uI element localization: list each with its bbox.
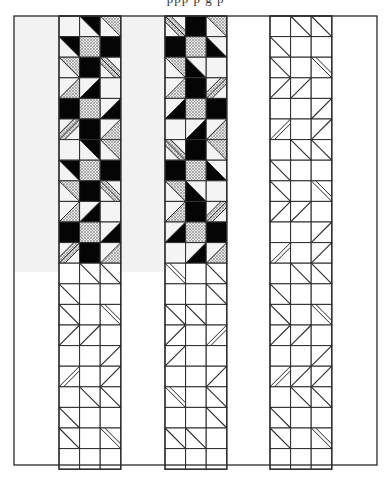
strip-cell: [165, 304, 186, 325]
strip-cell: [186, 222, 207, 243]
strip-cell: [206, 428, 227, 449]
strip-cell: [186, 57, 207, 78]
strip-cell: [59, 201, 80, 222]
strip-cell: [80, 140, 101, 161]
strip-cell: [165, 78, 186, 99]
strip-cell: [311, 284, 332, 305]
strip-cell: [270, 222, 291, 243]
strip-cell: [100, 387, 121, 408]
strip-cell: [59, 98, 80, 119]
strip-cell: [291, 325, 312, 346]
strip-cell: [186, 37, 207, 58]
strip-cell: [80, 407, 101, 428]
strip-cell: [206, 284, 227, 305]
strip-cell: [311, 98, 332, 119]
strip-cell: [291, 449, 312, 470]
strip-cell: [186, 16, 207, 37]
strip-cell: [100, 366, 121, 387]
strip-cell: [311, 325, 332, 346]
strip-cell: [291, 428, 312, 449]
strip-cell: [59, 325, 80, 346]
strip-cell: [80, 37, 101, 58]
strip-cell: [270, 243, 291, 264]
strip-cell: [270, 284, 291, 305]
strip-cell: [100, 346, 121, 367]
strip-cell: [100, 57, 121, 78]
strip-cell: [186, 407, 207, 428]
strip-cell: [59, 346, 80, 367]
strip-cell: [206, 366, 227, 387]
strip-cell: [270, 346, 291, 367]
strip-cell: [206, 407, 227, 428]
strip-cell: [59, 160, 80, 181]
strip-cell: [80, 243, 101, 264]
strip-cell: [311, 428, 332, 449]
strip-cell: [59, 57, 80, 78]
strip-cell: [270, 57, 291, 78]
strip-cell: [291, 243, 312, 264]
strip-cell: [165, 181, 186, 202]
strip-cell: [291, 346, 312, 367]
strip-cell: [100, 201, 121, 222]
strip-cell: [100, 181, 121, 202]
strip-cell: [80, 325, 101, 346]
strip-cell: [186, 140, 207, 161]
strip-cell: [59, 304, 80, 325]
strip-cell: [186, 78, 207, 99]
strip-cell: [165, 263, 186, 284]
strip-cell: [291, 387, 312, 408]
strip-cell: [291, 119, 312, 140]
strip-cell: [206, 263, 227, 284]
strip-cell: [291, 160, 312, 181]
strip-cell: [186, 201, 207, 222]
strip-cell: [165, 366, 186, 387]
strip-cell: [206, 78, 227, 99]
strip-cell: [291, 366, 312, 387]
strip-cell: [206, 346, 227, 367]
strip-cell: [270, 201, 291, 222]
strip-cell: [291, 16, 312, 37]
strip-cell: [206, 37, 227, 58]
strip-cell: [270, 366, 291, 387]
strip-cell: [270, 407, 291, 428]
strip-cell: [165, 407, 186, 428]
strip-cell: [186, 263, 207, 284]
strip-cell: [270, 160, 291, 181]
strip-cell: [80, 16, 101, 37]
strip-cell: [206, 98, 227, 119]
strip-cell: [80, 263, 101, 284]
strip-cell: [80, 346, 101, 367]
strip-cell: [100, 284, 121, 305]
strip-cell: [80, 201, 101, 222]
strip-cell: [59, 16, 80, 37]
strip-cell: [291, 304, 312, 325]
strip-cell: [59, 387, 80, 408]
strip-cell: [186, 387, 207, 408]
strip-cell: [80, 284, 101, 305]
strip-cell: [59, 78, 80, 99]
strip-cell: [165, 98, 186, 119]
strip-cell: [80, 98, 101, 119]
strip-cell: [100, 222, 121, 243]
strip-cell: [270, 119, 291, 140]
strip-cell: [270, 140, 291, 161]
strip-cell: [206, 304, 227, 325]
strip-cell: [270, 181, 291, 202]
strip-cell: [186, 284, 207, 305]
strip-cell: [270, 16, 291, 37]
strip-cell: [165, 449, 186, 470]
strip-cell: [291, 263, 312, 284]
strip-cell: [100, 407, 121, 428]
strip-cell: [165, 222, 186, 243]
strip-cell: [165, 140, 186, 161]
strip-cell: [165, 325, 186, 346]
strip-cell: [291, 284, 312, 305]
strip-cell: [186, 366, 207, 387]
strip-cell: [80, 119, 101, 140]
strip-cell: [59, 119, 80, 140]
strip-cell: [311, 366, 332, 387]
strip-cell: [80, 387, 101, 408]
strip-cell: [59, 37, 80, 58]
strip-cell: [80, 304, 101, 325]
strip-cell: [80, 428, 101, 449]
